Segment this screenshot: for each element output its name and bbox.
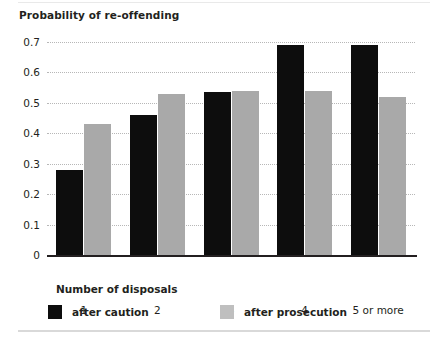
y-axis-tick: 0.3: [2, 158, 40, 170]
legend-label: after caution: [72, 306, 149, 318]
bar-prosecution-2: [158, 94, 185, 255]
top-divider: [18, 2, 430, 3]
legend-label: after prosecution: [244, 306, 347, 318]
bar-caution-5: [351, 45, 378, 255]
y-axis-tick: 0.6: [2, 66, 40, 78]
y-axis-tick: 0.1: [2, 219, 40, 231]
x-axis-line: [47, 255, 417, 257]
x-axis-tick: 5 or more: [353, 304, 404, 316]
y-axis-tick: 0: [2, 249, 40, 261]
plot-area: 00.10.20.30.40.50.60.7 12345 or more: [47, 42, 415, 255]
bar-caution-2: [130, 115, 157, 255]
x-axis-tick: 2: [154, 304, 161, 316]
y-axis-tick: 0.5: [2, 97, 40, 109]
legend-swatch-icon: [48, 305, 62, 319]
y-axis-tick: 0.2: [2, 188, 40, 200]
chart-title: Probability of re-offending: [19, 9, 179, 21]
bar-prosecution-4: [305, 91, 332, 255]
bar-prosecution-1: [84, 124, 111, 255]
bar-caution-3: [204, 92, 231, 255]
chart-figure: Probability of re-offending 00.10.20.30.…: [0, 0, 448, 337]
bar-caution-4: [277, 45, 304, 255]
legend-item-caution[interactable]: after caution: [48, 305, 149, 319]
bar-caution-1: [56, 170, 83, 255]
legend-item-prosecution[interactable]: after prosecution: [220, 305, 347, 319]
bar-series-container: [47, 42, 415, 255]
legend-swatch-icon: [220, 305, 234, 319]
y-axis-tick: 0.7: [2, 36, 40, 48]
bar-prosecution-5: [379, 97, 406, 255]
bottom-divider: [18, 330, 430, 332]
y-axis-tick: 0.4: [2, 127, 40, 139]
x-axis-title: Number of disposals: [56, 283, 177, 295]
bar-prosecution-3: [232, 91, 259, 255]
